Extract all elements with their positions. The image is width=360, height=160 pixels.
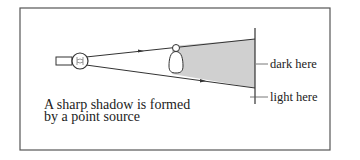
light-here-label: light here bbox=[270, 90, 318, 104]
caption-line-2: by a point source bbox=[44, 109, 140, 124]
bulb-base bbox=[56, 57, 72, 65]
point-source-bulb-icon bbox=[72, 53, 88, 69]
dark-here-label: dark here bbox=[270, 57, 317, 71]
opaque-object-icon bbox=[169, 52, 183, 74]
object-head-icon bbox=[173, 45, 180, 52]
shadow-diagram: dark here light here A sharp shadow is f… bbox=[0, 0, 360, 160]
diagram-frame bbox=[20, 8, 330, 150]
